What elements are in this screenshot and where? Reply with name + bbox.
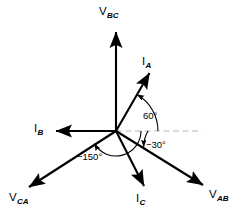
- phasor-label-i-b: IB: [34, 123, 43, 137]
- phasor-label-i-a-sub: A: [145, 61, 151, 70]
- phasor-label-v-bc: VBC: [99, 6, 118, 20]
- angle-label-60: 60°: [143, 111, 157, 121]
- phasor-label-v-ab-sub: AB: [217, 194, 229, 203]
- phasor-label-v-bc-sub: BC: [107, 11, 119, 20]
- angle-label-minus-30: −30°: [146, 140, 166, 150]
- phasor-label-v-ca: VCA: [9, 192, 28, 206]
- phasor-vector-canvas: [0, 0, 247, 217]
- phasor-label-i-b-sub: B: [37, 128, 43, 137]
- phasor-label-v-ab-main: V: [209, 188, 217, 200]
- phasor-label-v-ca-sub: CA: [17, 197, 29, 206]
- phasor-label-i-c: IC: [136, 193, 145, 207]
- phasor-label-v-ab: VAB: [209, 189, 228, 203]
- phasor-vector-v-ca: [29, 131, 116, 187]
- phasor-label-v-bc-main: V: [99, 5, 107, 17]
- phasor-label-i-c-sub: C: [139, 198, 145, 207]
- angle-label-minus-150: −150°: [77, 152, 102, 162]
- phasor-vector-i-a: [116, 73, 150, 131]
- phasor-label-i-a: IA: [142, 56, 151, 70]
- phasor-diagram: VBC IA IB VCA IC VAB 60° −30° −150°: [0, 0, 247, 217]
- phasor-label-v-ca-main: V: [9, 191, 17, 203]
